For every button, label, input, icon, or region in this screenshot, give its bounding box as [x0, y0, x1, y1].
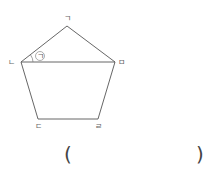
pentagon-outline: [21, 26, 115, 119]
angle-arc: [31, 55, 33, 62]
answer-blank[interactable]: [78, 146, 190, 166]
vertex-label-a: ㄱ: [64, 14, 71, 23]
vertex-label-b: ㄴ: [8, 58, 15, 67]
answer-open-paren: (: [64, 142, 72, 166]
answer-close-paren: ): [196, 142, 204, 166]
angle-mark-label: ㄱ: [37, 52, 44, 61]
vertex-label-e: ㅁ: [118, 58, 125, 67]
vertex-label-d: ㄹ: [95, 122, 102, 131]
vertex-label-c: ㄷ: [35, 122, 42, 131]
